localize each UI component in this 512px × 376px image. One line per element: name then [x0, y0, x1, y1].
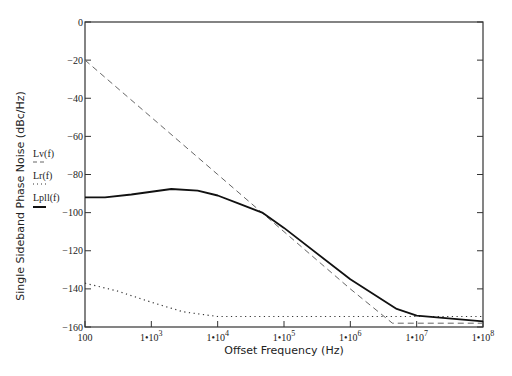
legend: Lv(f) Lr(f) Lpll(f)	[33, 148, 60, 207]
x-tick-label: 1•107	[405, 329, 428, 343]
series-lvf	[85, 60, 483, 323]
y-axis-label: Single Sideband Phase Noise (dBc/Hz)	[14, 91, 27, 301]
x-tick-label: 1•108	[472, 329, 495, 343]
legend-label-lpll: Lpll(f)	[33, 192, 60, 204]
y-axis-ticks: 0−20−40−60−80−100−120−140−160	[62, 17, 483, 333]
x-axis-ticks: 1001•1031•1041•1051•1061•1071•108	[78, 321, 495, 343]
y-tick-label: −80	[67, 169, 83, 180]
y-tick-label: 0	[78, 17, 83, 28]
y-tick-label: −20	[67, 55, 83, 66]
legend-label-lr: Lr(f)	[33, 170, 52, 182]
y-tick-label: −140	[62, 283, 83, 294]
y-tick-label: −120	[62, 245, 83, 256]
series-lines	[85, 60, 483, 323]
phase-noise-chart: 0−20−40−60−80−100−120−140−160 1001•1031•…	[0, 0, 512, 376]
x-tick-label: 100	[78, 332, 93, 343]
x-axis-label: Offset Frequency (Hz)	[224, 344, 344, 357]
plot-border	[85, 22, 483, 327]
legend-label-lv: Lv(f)	[33, 148, 54, 160]
y-tick-label: −40	[67, 93, 83, 104]
series-lrf	[85, 283, 483, 316]
y-tick-label: −160	[62, 322, 83, 333]
plot-frame	[85, 22, 483, 327]
x-tick-label: 1•106	[339, 329, 362, 343]
y-tick-label: −100	[62, 207, 83, 218]
x-tick-label: 1•104	[206, 329, 229, 343]
x-tick-label: 1•103	[140, 329, 163, 343]
x-tick-label: 1•105	[273, 329, 296, 343]
y-tick-label: −60	[67, 131, 83, 142]
series-lpllf	[85, 189, 483, 321]
